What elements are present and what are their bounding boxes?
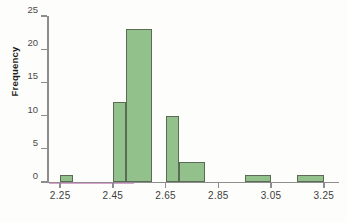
- histogram-bar: [60, 175, 73, 182]
- histogram-bar: [113, 102, 126, 182]
- histogram-bar: [245, 175, 271, 182]
- histogram-bar: [179, 162, 205, 182]
- plot-area: [0, 0, 347, 222]
- histogram-chart: Frequency 0510152025 2.252.452.652.853.0…: [0, 0, 347, 222]
- histogram-bar: [297, 175, 323, 182]
- histogram-bar: [166, 116, 179, 182]
- histogram-bar: [126, 29, 152, 182]
